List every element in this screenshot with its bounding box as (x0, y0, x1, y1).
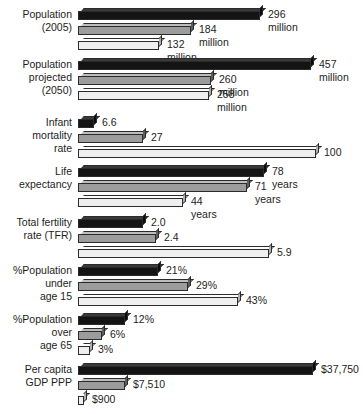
bar-value-label: 71 years (255, 180, 281, 206)
bar-face-front (78, 76, 211, 85)
bar-face-front (78, 11, 260, 20)
bar-face-side (156, 228, 159, 240)
bar-series-1 (78, 119, 94, 128)
bar-series-2 (78, 76, 211, 85)
bar-face-side (159, 35, 162, 47)
bar-face-front (78, 249, 269, 258)
bar-series-3 (78, 149, 316, 158)
bar-value-label: 29% (196, 279, 217, 292)
bar-face-side (269, 243, 272, 255)
bar-face-front (78, 183, 247, 192)
bar-series-3 (78, 41, 159, 50)
bar-face-front (78, 91, 209, 100)
bar-value-label: $37,750 (321, 363, 359, 376)
bar-face-front (78, 234, 156, 243)
bar-value-label: 5.9 (277, 246, 292, 259)
bar-face-front (78, 381, 125, 390)
bar-value-label: 27 (151, 131, 163, 144)
group-label: Population (2005) (0, 8, 72, 34)
bar-face-front (78, 134, 143, 143)
group-label: Total fertility rate (TFR) (0, 216, 72, 242)
bar-series-1 (78, 316, 125, 325)
bar-series-2 (78, 331, 102, 340)
bar-face-side (188, 276, 191, 288)
bar-value-label: 100 (324, 146, 342, 159)
bar-face-front (78, 26, 191, 35)
bar-series-2 (78, 282, 188, 291)
bar-face-side (191, 20, 194, 32)
group-label: %Population over age 65 (0, 313, 72, 352)
bar-series-1 (78, 11, 260, 20)
bar-series-3 (78, 297, 238, 306)
bar-series-1 (78, 219, 143, 228)
bar-face-side (125, 375, 128, 387)
bar-face-front (78, 61, 311, 70)
bar-value-label: $900 (92, 393, 115, 406)
bar-face-side (94, 113, 97, 125)
bar-face-side (238, 291, 241, 303)
bar-face-side (260, 5, 263, 17)
grouped-bar-chart: Population (2005)296 million184 million1… (0, 0, 363, 414)
group-label: Population projected (2050) (0, 58, 72, 97)
group-label: Life expectancy (0, 165, 72, 191)
bar-series-2 (78, 134, 143, 143)
bar-series-1 (78, 366, 313, 375)
bar-face-front (78, 366, 313, 375)
bar-value-label: 2.4 (164, 231, 179, 244)
bar-face-side (143, 213, 146, 225)
bar-value-label: 184 million (199, 23, 229, 49)
bar-face-side (264, 162, 267, 174)
group-label: Infant mortality rate (0, 116, 72, 155)
bar-face-side (90, 340, 93, 352)
bar-series-2 (78, 234, 156, 243)
bar-value-label: 6.6 (102, 116, 117, 129)
bar-face-front (78, 267, 158, 276)
bar-face-front (78, 119, 94, 128)
bar-value-label: 21% (166, 264, 187, 277)
bar-face-side (311, 55, 314, 67)
bar-face-front (78, 331, 102, 340)
bar-face-side (84, 390, 87, 402)
bar-face-front (78, 219, 143, 228)
bar-series-1 (78, 267, 158, 276)
bar-value-label: 43% (246, 294, 267, 307)
bar-face-front (78, 396, 84, 405)
bar-series-2 (78, 183, 247, 192)
group-label: %Population under age 15 (0, 264, 72, 303)
bar-face-front (78, 297, 238, 306)
bar-face-side (211, 70, 214, 82)
bar-value-label: 296 million (268, 8, 298, 34)
bar-series-1 (78, 61, 311, 70)
bar-face-front (78, 198, 183, 207)
bar-face-side (125, 310, 128, 322)
group-label: Per capita GDP PPP (0, 363, 72, 389)
bar-face-side (247, 177, 250, 189)
bar-face-side (316, 143, 319, 155)
bar-face-side (143, 128, 146, 140)
bar-series-2 (78, 381, 125, 390)
bar-value-label: 3% (98, 343, 113, 356)
bar-face-side (313, 360, 316, 372)
bar-value-label: 6% (110, 328, 125, 341)
bar-value-label: $7,510 (133, 378, 165, 391)
bar-face-side (183, 192, 186, 204)
bar-face-front (78, 168, 264, 177)
bar-value-label: 457 million (319, 58, 349, 84)
bar-series-2 (78, 26, 191, 35)
bar-face-front (78, 346, 90, 355)
bar-face-front (78, 41, 159, 50)
bar-series-3 (78, 91, 209, 100)
bar-face-side (158, 261, 161, 273)
bar-face-side (102, 325, 105, 337)
bar-face-side (209, 85, 212, 97)
bar-series-3 (78, 249, 269, 258)
bar-value-label: 12% (133, 313, 154, 326)
bar-series-3 (78, 346, 90, 355)
bar-face-front (78, 316, 125, 325)
bar-series-3 (78, 198, 183, 207)
bar-value-label: 258 million (217, 88, 247, 114)
bar-series-1 (78, 168, 264, 177)
bar-series-3 (78, 396, 84, 405)
bar-face-front (78, 282, 188, 291)
bar-value-label: 44 years (191, 195, 217, 221)
